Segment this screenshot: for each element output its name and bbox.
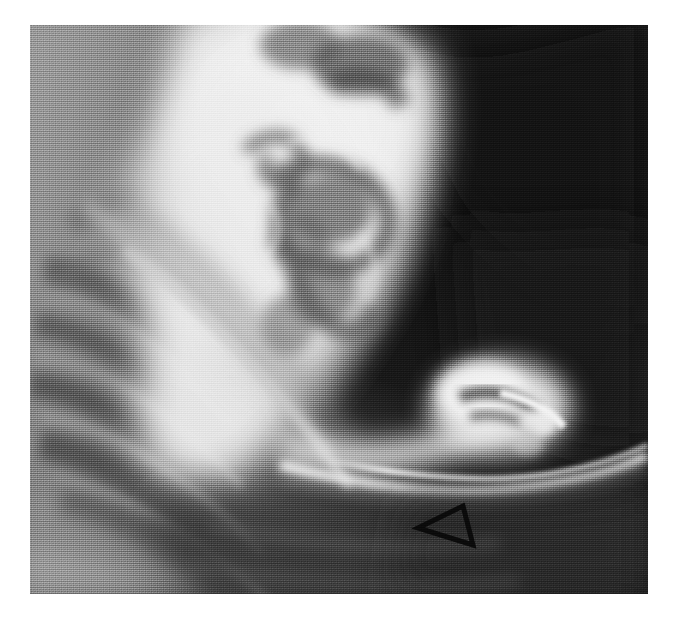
figure-page <box>0 0 674 621</box>
radiograph-image <box>30 25 648 594</box>
radiograph-plate <box>30 25 648 594</box>
